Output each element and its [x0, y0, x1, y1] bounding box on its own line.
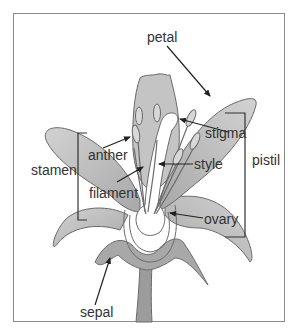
label-style: style — [194, 157, 223, 171]
label-filament: filament — [89, 186, 138, 200]
label-sepal: sepal — [80, 305, 113, 319]
label-stamen: stamen — [31, 163, 77, 177]
label-petal: petal — [147, 30, 177, 44]
stem — [136, 265, 152, 322]
label-anther: anther — [88, 148, 128, 162]
label-stigma: stigma — [205, 126, 246, 140]
label-ovary: ovary — [204, 212, 238, 226]
label-pistil: pistil — [252, 153, 280, 167]
sepal-arrow — [95, 258, 110, 305]
flower-diagram: petal stigma anther style pistil stamen … — [0, 0, 298, 335]
